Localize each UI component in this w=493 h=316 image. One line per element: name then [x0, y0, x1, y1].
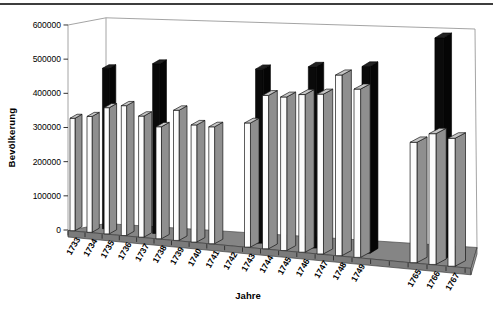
- bar-side-face: [417, 137, 427, 263]
- bar-front-face: [263, 95, 269, 248]
- bar-1736: [121, 101, 134, 235]
- bar-1748: [336, 70, 352, 256]
- bar-front-face: [191, 125, 197, 242]
- bar-side-face: [161, 122, 169, 238]
- bar-side-face: [287, 92, 296, 250]
- bar-front-face: [156, 127, 161, 239]
- bar-side-face: [269, 91, 278, 249]
- bar-side-face: [127, 101, 134, 235]
- y-axis-tick-label: 300000: [33, 122, 62, 132]
- bar-front-face: [209, 127, 215, 244]
- bar-side-face: [342, 70, 351, 256]
- bar-1737: [139, 112, 152, 237]
- bar-front-face: [354, 89, 361, 257]
- bar-1766: [429, 128, 446, 264]
- bar-1765: [410, 137, 427, 263]
- bar-1745: [281, 92, 296, 250]
- bar-1735: [104, 104, 117, 234]
- bar-1738: [156, 122, 169, 238]
- bar-side-face: [179, 106, 187, 241]
- bar-front-face: [121, 106, 126, 236]
- bar-1744: [263, 91, 278, 249]
- bar-1740: [191, 120, 205, 242]
- bar-1743: [245, 118, 260, 247]
- bar-1767: [448, 133, 466, 266]
- wall-top-left-edge: [68, 18, 106, 25]
- bar-front-face: [429, 134, 436, 265]
- bar-front-face: [448, 138, 455, 266]
- bar-side-face: [75, 114, 82, 230]
- bar-side-face: [197, 120, 205, 242]
- y-axis-tick-label: 0: [56, 225, 61, 235]
- bar-side-face: [361, 84, 371, 257]
- bar-side-face: [305, 90, 314, 253]
- bar-face: [370, 62, 378, 253]
- bar-side-face: [323, 89, 332, 254]
- wall-top-edge: [106, 18, 475, 29]
- y-axis-tick-label: 200000: [33, 157, 62, 167]
- bar-1749: [354, 84, 370, 257]
- y-axis-title: Bevölkerung: [6, 93, 19, 183]
- bar-front-face: [299, 95, 305, 253]
- bar-1741: [209, 122, 223, 244]
- bar-side-face: [109, 104, 116, 234]
- bar-front-face: [410, 142, 417, 262]
- bar-1733: [70, 114, 82, 230]
- population-3d-bar-chart: 0100000200000300000400000500000600000173…: [0, 0, 493, 316]
- bar-1746: [299, 90, 314, 253]
- bar-side-face: [250, 118, 259, 247]
- bar-front-face: [87, 116, 92, 232]
- bar-front-face: [245, 123, 251, 247]
- y-axis-tick-label: 500000: [33, 54, 62, 64]
- y-axis-tick-label: 400000: [33, 88, 62, 98]
- bar-side-face: [455, 133, 465, 266]
- wall-right-edge: [475, 29, 477, 248]
- bar-side-face: [144, 112, 152, 237]
- bar-front-face: [336, 75, 342, 256]
- bar-side-face: [436, 128, 446, 264]
- bar-side-face: [215, 122, 223, 244]
- chart-canvas: 0100000200000300000400000500000600000173…: [0, 0, 493, 316]
- x-axis-title: Jahre: [213, 290, 283, 302]
- bar-front-face: [281, 97, 287, 251]
- bar-front-face: [104, 108, 109, 234]
- bar-1739: [174, 106, 188, 241]
- bar-front-face: [317, 94, 323, 254]
- bar-front-face: [70, 118, 75, 230]
- bar-side-face: [92, 112, 99, 232]
- bar-front-face: [139, 116, 144, 237]
- bar-1747: [317, 89, 333, 254]
- page: 0100000200000300000400000500000600000173…: [0, 0, 493, 316]
- bar-front-face: [174, 110, 180, 240]
- y-axis-tick-label: 600000: [33, 20, 62, 30]
- y-axis-tick-label: 100000: [33, 191, 62, 201]
- bar-1734: [87, 112, 99, 232]
